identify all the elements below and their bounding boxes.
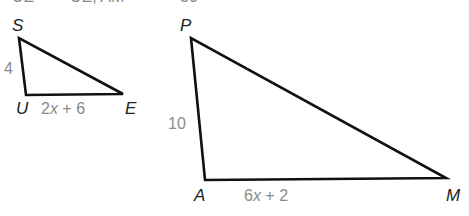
vertex-label-p: P [180,16,192,35]
side-label-am: 6x + 2 [244,187,288,204]
triangle-pam [191,38,446,180]
vertex-label-s: S [12,16,24,35]
vertex-label-m: M [446,186,461,205]
vertex-label-u: U [16,99,29,118]
triangle-sue [19,38,123,95]
similar-triangles-figure: S U E 4 2x + 6 P A M 10 6x + 2 [0,0,469,216]
vertex-label-e: E [125,99,137,118]
side-label-ue: 2x + 6 [41,100,85,117]
vertex-label-a: A [193,186,205,205]
side-label-pa: 10 [168,115,186,132]
side-label-su: 4 [4,60,13,77]
